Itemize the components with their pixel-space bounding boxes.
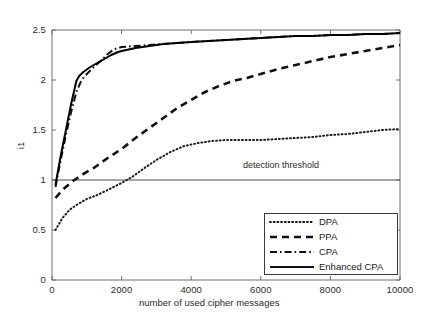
y-tick-label: 2 xyxy=(0,74,46,85)
series-line-cpa xyxy=(55,33,400,187)
legend-line-sample xyxy=(269,246,315,258)
x-tick-label: 6000 xyxy=(241,284,281,295)
legend-item-label: CPA xyxy=(319,247,338,257)
y-tick-label: 0.5 xyxy=(0,224,46,235)
x-tick-label: 4000 xyxy=(171,284,211,295)
legend-item-label: Enhanced CPA xyxy=(319,262,383,272)
x-tick-label: 0 xyxy=(32,284,72,295)
legend-item-enhanced-cpa[interactable]: Enhanced CPA xyxy=(265,259,397,274)
legend-item-label: PPA xyxy=(319,232,337,242)
y-tick-label: 1 xyxy=(0,174,46,185)
y-axis-label: i1 xyxy=(15,134,26,158)
series-line-ppa xyxy=(55,45,400,198)
series-line-enhanced-cpa xyxy=(55,33,400,185)
x-tick-label: 10000 xyxy=(380,284,420,295)
legend-item-label: DPA xyxy=(319,217,338,227)
x-tick-label: 2000 xyxy=(102,284,142,295)
legend-item-dpa[interactable]: DPA xyxy=(265,214,397,229)
legend[interactable]: DPAPPACPAEnhanced CPA xyxy=(264,213,398,275)
x-tick-label: 8000 xyxy=(310,284,350,295)
detection-threshold-annotation: detection threshold xyxy=(243,160,319,170)
y-tick-label: 2.5 xyxy=(0,24,46,35)
legend-item-ppa[interactable]: PPA xyxy=(265,229,397,244)
legend-line-sample xyxy=(269,231,315,243)
legend-line-sample xyxy=(269,261,315,273)
legend-line-sample xyxy=(269,216,315,228)
chart-figure: 00.511.522.5 0200040006000800010000 i1 n… xyxy=(0,0,428,319)
x-axis-label: number of used cipher messages xyxy=(139,297,279,308)
legend-item-cpa[interactable]: CPA xyxy=(265,244,397,259)
